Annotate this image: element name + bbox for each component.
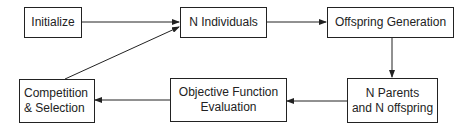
node-n-individuals: N Individuals — [180, 7, 267, 38]
node-n-parents-offspring: N Parents and N offspring — [347, 78, 438, 123]
node-label-line1: Objective Function — [179, 85, 278, 100]
node-label-line2: and N offspring — [352, 101, 433, 116]
node-label-line2: Evaluation — [200, 100, 256, 115]
node-initialize: Initialize — [24, 7, 82, 38]
node-label: N Individuals — [189, 15, 258, 30]
node-offspring-generation: Offspring Generation — [327, 7, 454, 38]
node-competition-selection: Competition & Selection — [19, 79, 95, 123]
node-label-line1: Competition — [24, 86, 88, 101]
node-label-line1: N Parents — [366, 86, 419, 101]
node-label-line2: & Selection — [24, 101, 85, 116]
node-label: Initialize — [31, 15, 74, 30]
arrow-competition-to-individuals — [65, 27, 179, 79]
node-label: Offspring Generation — [335, 15, 446, 30]
node-objective-function: Objective Function Evaluation — [170, 78, 287, 122]
